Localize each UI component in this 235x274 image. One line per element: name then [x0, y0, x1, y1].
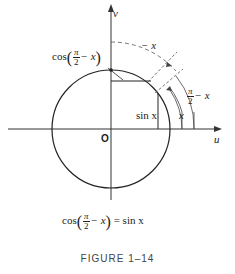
figure-caption: FIGURE 1–14: [0, 253, 235, 264]
cos-text: cos: [52, 50, 67, 62]
two-text: 2: [84, 222, 89, 231]
rhs-text: = sin x: [114, 214, 144, 226]
origin-label: O: [101, 134, 109, 144]
two-text: 2: [188, 97, 193, 106]
minus-x-text: − x: [81, 50, 96, 62]
unit-circle-diagram: [0, 0, 235, 274]
arc-arrow-icon: [166, 86, 172, 91]
identity-equation: cos(π2− x) = sin x: [62, 212, 144, 231]
u-axis-arrow-icon: [214, 126, 222, 132]
cos-text: cos: [62, 214, 77, 226]
sin-x-label: sin x: [136, 110, 157, 121]
dashed-ray-1: [148, 52, 177, 82]
arc-pi-over-2-minus-x-label: π2− x: [186, 87, 210, 106]
minus-x-text: − x: [195, 89, 210, 101]
arc-minus-x-label: − x: [141, 40, 156, 51]
arc-x-label: x: [179, 110, 184, 121]
minus-x-text: − x: [91, 214, 106, 226]
u-axis-label: u: [214, 134, 220, 145]
v-axis-label: v: [113, 8, 118, 19]
cos-pi-over-2-minus-x-label: cos(π2− x): [52, 48, 101, 67]
two-text: 2: [74, 58, 79, 67]
